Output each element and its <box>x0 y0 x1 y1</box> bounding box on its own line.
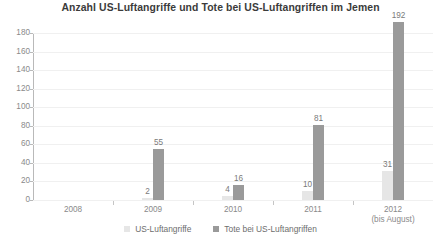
y-tick-60 <box>30 144 33 145</box>
y-tick-label-20: 20 <box>4 176 30 185</box>
legend-item-us-luftangriffe: US-Luftangriffe <box>124 224 191 234</box>
y-tick-80 <box>30 126 33 127</box>
bar-2010-series-0 <box>222 196 233 200</box>
x-axis-label-text: 2008 <box>64 205 82 214</box>
bar-2009-series-1 <box>153 149 164 200</box>
chart-legend: US-Luftangriffe Tote bei US-Luftangriffe… <box>0 224 441 234</box>
x-axis-label-text: 2012 <box>384 205 402 214</box>
bar-2012-series-1 <box>393 22 404 200</box>
legend-label-series-0: US-Luftangriffe <box>135 224 191 234</box>
x-axis-label-text: 2009 <box>144 205 162 214</box>
bar-value-label-2011-series-1: 81 <box>307 114 330 123</box>
y-tick-label-120: 120 <box>4 84 30 93</box>
bar-value-label-2012-series-1: 192 <box>387 11 410 20</box>
y-axis-labels: 020406080100120140160180 <box>0 0 30 250</box>
legend-swatch-icon-light <box>124 226 130 232</box>
legend-swatch-icon-dark <box>213 226 219 232</box>
y-tick-140 <box>30 70 33 71</box>
y-tick-label-80: 80 <box>4 121 30 130</box>
bars-layer: 255416108131192 <box>33 33 433 200</box>
y-tick-label-100: 100 <box>4 102 30 111</box>
y-tick-label-140: 140 <box>4 65 30 74</box>
x-axis-label-2010: 2010 <box>193 205 273 215</box>
legend-item-tote-bei-us-luftangriffen: Tote bei US-Luftangriffen <box>213 224 317 234</box>
chart-title: Anzahl US-Luftangriffe und Tote bei US-L… <box>0 2 441 13</box>
y-tick-0 <box>30 200 33 201</box>
y-tick-label-180: 180 <box>4 28 30 37</box>
bar-2012-series-0 <box>382 171 393 200</box>
y-tick-label-40: 40 <box>4 158 30 167</box>
bar-2011-series-1 <box>313 125 324 200</box>
x-tick-2011 <box>273 201 274 205</box>
x-tick-2010 <box>193 201 194 205</box>
y-tick-160 <box>30 52 33 53</box>
y-tick-20 <box>30 181 33 182</box>
bar-2010-series-1 <box>233 185 244 200</box>
x-axis-label-2009: 2009 <box>113 205 193 215</box>
bar-value-label-2010-series-1: 16 <box>227 174 250 183</box>
y-tick-40 <box>30 163 33 164</box>
x-axis-label-2012: 2012(bis August) <box>353 205 433 225</box>
x-axis-label-text: 2011 <box>304 205 322 214</box>
y-tick-label-60: 60 <box>4 139 30 148</box>
gridline-0 <box>33 200 433 201</box>
bar-2009-series-0 <box>142 198 153 200</box>
y-tick-180 <box>30 33 33 34</box>
x-axis-label-text: 2010 <box>224 205 242 214</box>
bar-2011-series-0 <box>302 191 313 200</box>
y-tick-label-0: 0 <box>4 195 30 204</box>
y-tick-label-160: 160 <box>4 47 30 56</box>
y-tick-100 <box>30 107 33 108</box>
legend-label-series-1: Tote bei US-Luftangriffen <box>224 224 317 234</box>
x-axis-label-2008: 2008 <box>33 205 113 215</box>
x-tick-2012 <box>353 201 354 205</box>
x-tick-2009 <box>113 201 114 205</box>
bar-value-label-2009-series-1: 55 <box>147 138 170 147</box>
y-tick-120 <box>30 89 33 90</box>
x-axis-label-2011: 2011 <box>273 205 353 215</box>
chart-container: Anzahl US-Luftangriffe und Tote bei US-L… <box>0 0 441 250</box>
